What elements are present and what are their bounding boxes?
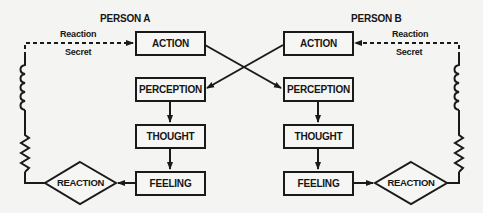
b-action-box: ACTION bbox=[283, 31, 354, 56]
a-feedback-loop bbox=[21, 43, 134, 183]
b-feedback-loop bbox=[355, 43, 463, 183]
b-perception-box: PERCEPTION bbox=[283, 77, 354, 102]
person-b-reaction-label: Reaction bbox=[392, 29, 428, 39]
a-feeling-box: FEELING bbox=[135, 171, 206, 196]
b-reaction-label: REACTION bbox=[375, 177, 447, 188]
a-reaction-label: REACTION bbox=[45, 177, 116, 188]
person-a-secret-label: Secret bbox=[65, 47, 91, 57]
person-b-title: PERSON B bbox=[351, 13, 402, 24]
person-b-secret-label: Secret bbox=[396, 47, 422, 57]
person-a-title: PERSON A bbox=[100, 13, 150, 24]
b-feeling-box: FEELING bbox=[283, 171, 354, 196]
a-action-box: ACTION bbox=[135, 31, 206, 56]
person-a-reaction-label: Reaction bbox=[60, 29, 96, 39]
a-perception-box: PERCEPTION bbox=[135, 77, 206, 102]
b-thought-box: THOUGHT bbox=[283, 124, 354, 149]
a-thought-box: THOUGHT bbox=[135, 124, 206, 149]
